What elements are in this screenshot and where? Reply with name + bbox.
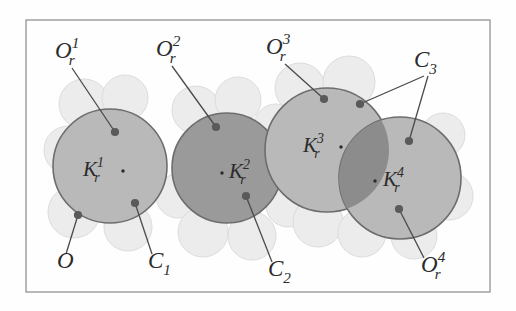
anchor-dot-O [74,211,82,219]
sphere-center-dot-K3 [339,145,342,148]
anchor-dot-C1 [131,199,139,207]
figure-panel: K1rK2rK3rK4r O1rO2rO3rC3OC1C2O4r [0,0,516,311]
sphere-K2 [172,113,282,223]
anchor-dot-Or3 [320,95,328,103]
sphere-center-dot-K2 [220,171,223,174]
callout-label-O: O [57,248,74,273]
anchor-dot-C2 [242,192,250,200]
anchor-dot-Or2 [212,123,220,131]
molecular-sphere-diagram: K1rK2rK3rK4r O1rO2rO3rC3OC1C2O4r [0,0,516,311]
anchor-dot-C3 [356,100,364,108]
anchor-dot-Or1 [111,128,119,136]
sphere-center-dot-K4 [373,179,376,182]
anchor-dot-Or4 [395,205,403,213]
sphere-center-dot-K1 [121,169,124,172]
anchor-dot-C3-b [405,137,413,145]
sphere-K1 [53,109,167,223]
